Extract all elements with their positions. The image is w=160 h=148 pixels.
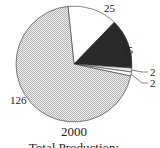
chart-subtitle: Total Production:: [29, 140, 119, 148]
slice-label: 25: [104, 2, 116, 14]
slice-label: 126: [10, 94, 27, 106]
slice-label: 25: [122, 44, 134, 56]
leader-line: [131, 74, 148, 83]
slice-label: 2: [150, 77, 156, 89]
leader-line: [132, 70, 148, 72]
pie-chart: 252522126 2000 Total Production:: [0, 0, 160, 148]
chart-title: 2000: [61, 124, 87, 139]
